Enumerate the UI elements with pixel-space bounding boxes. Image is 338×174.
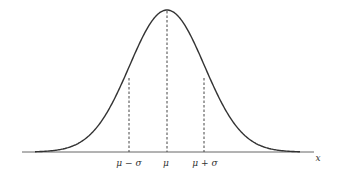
label-mu-minus-sigma: μ − σ [116, 158, 142, 168]
label-mu: μ [163, 158, 169, 168]
axis-label-x: x [315, 153, 320, 163]
normal-distribution-diagram: μ − σ μ μ + σ x [0, 0, 338, 174]
label-mu-plus-sigma: μ + σ [192, 158, 218, 168]
